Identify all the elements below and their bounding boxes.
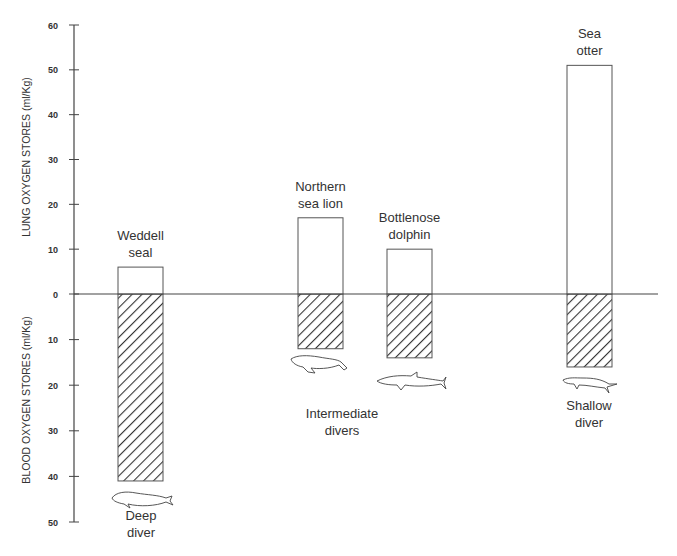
category-label: Northern <box>295 179 346 194</box>
tick-label: 10 <box>48 335 58 345</box>
y-axis-label-blood: BLOOD OXYGEN STORES (ml/Kg) <box>20 316 32 483</box>
y-axis-label-lung: LUNG OXYGEN STORES (ml/Kg) <box>20 77 32 237</box>
otter-icon <box>563 378 617 393</box>
bar-blood <box>387 294 432 358</box>
seal-icon <box>112 492 173 508</box>
bar-lung <box>298 218 343 294</box>
tick-label: 40 <box>48 110 58 120</box>
bar-lung <box>118 267 163 294</box>
diver-category-label: diver <box>127 525 156 540</box>
chart-container: 01020304050601020304050LUNG OXYGEN STORE… <box>0 0 677 556</box>
diver-category-label: diver <box>575 415 604 430</box>
sea-lion-icon <box>291 356 347 373</box>
tick-label: 40 <box>48 472 58 482</box>
category-label: dolphin <box>389 227 431 242</box>
labels: WeddellsealNorthernsea lionBottlenosedol… <box>117 26 612 540</box>
diving-oxygen-chart: 01020304050601020304050LUNG OXYGEN STORE… <box>0 0 677 556</box>
tick-label: 20 <box>48 200 58 210</box>
tick-label: 0 <box>53 290 58 300</box>
bar-lung <box>387 249 432 294</box>
tick-label: 20 <box>48 381 58 391</box>
category-label: Weddell <box>117 228 164 243</box>
dolphin-icon <box>377 372 446 390</box>
tick-label: 30 <box>48 426 58 436</box>
tick-label: 10 <box>48 245 58 255</box>
tick-label: 50 <box>48 518 58 528</box>
diver-category-label: divers <box>325 423 360 438</box>
tick-label: 50 <box>48 65 58 75</box>
bar-blood <box>567 294 612 367</box>
bar-blood <box>298 294 343 349</box>
tick-label: 60 <box>48 21 58 31</box>
bar-blood <box>118 294 163 481</box>
animal-icons <box>112 356 617 508</box>
category-label: seal <box>129 245 153 260</box>
category-label: Sea <box>578 26 602 41</box>
category-label: Bottlenose <box>379 210 440 225</box>
category-label: otter <box>576 43 603 58</box>
tick-label: 30 <box>48 155 58 165</box>
bar-lung <box>567 65 612 294</box>
diver-category-label: Intermediate <box>306 406 378 421</box>
category-label: sea lion <box>298 196 343 211</box>
diver-category-label: Shallow <box>566 398 612 413</box>
diver-category-label: Deep <box>125 508 156 523</box>
